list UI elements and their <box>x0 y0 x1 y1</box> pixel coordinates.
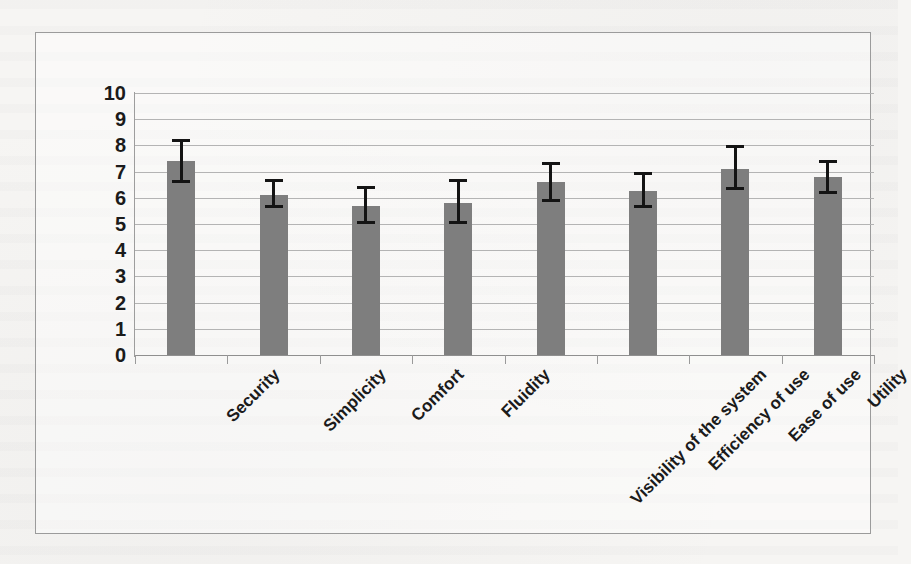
category-label: Security <box>223 365 285 427</box>
error-bar-cap-lower <box>357 221 375 224</box>
y-axis-tick-label: 0 <box>82 345 126 365</box>
category-label: Fluidity <box>498 365 555 422</box>
category-axis-tick <box>505 355 506 364</box>
gridline <box>135 145 874 146</box>
error-bar-cap-lower <box>172 180 190 183</box>
error-bar-stem <box>826 160 829 194</box>
bar <box>629 191 657 355</box>
error-bar <box>357 186 375 224</box>
error-bar-stem <box>549 162 552 201</box>
bar <box>721 169 749 355</box>
error-bar <box>172 139 190 184</box>
bar <box>537 182 565 355</box>
gridline <box>135 276 874 277</box>
error-bar-cap-lower <box>819 191 837 194</box>
error-bar <box>542 162 560 201</box>
y-axis-tick-label: 10 <box>82 83 126 103</box>
y-axis-tick-label: 8 <box>82 135 126 155</box>
y-axis-tick-labels: 109876543210 <box>76 33 126 533</box>
error-bar-cap-lower <box>542 199 560 202</box>
gridline <box>135 119 874 120</box>
error-bar <box>449 179 467 224</box>
y-axis-tick-label: 4 <box>82 240 126 260</box>
category-axis-tick <box>135 355 136 364</box>
category-label: Comfort <box>407 365 468 426</box>
gridline <box>135 172 874 173</box>
category-label: Utility <box>864 365 911 413</box>
y-axis-tick-label: 5 <box>82 214 126 234</box>
y-axis-tick-label: 6 <box>82 188 126 208</box>
error-bar <box>819 160 837 194</box>
error-bar-stem <box>180 139 183 184</box>
error-bar-cap-lower <box>634 205 652 208</box>
error-bar-stem <box>457 179 460 224</box>
gridline <box>135 93 874 94</box>
bar <box>352 206 380 355</box>
y-axis-tick-label: 9 <box>82 109 126 129</box>
bar <box>444 203 472 355</box>
category-axis-tick <box>597 355 598 364</box>
y-axis-tick-label: 1 <box>82 319 126 339</box>
error-bar-stem <box>734 145 737 190</box>
error-bar <box>726 145 744 190</box>
category-axis-tick <box>227 355 228 364</box>
value-axis-line <box>134 92 135 357</box>
error-bar-stem <box>642 172 645 209</box>
error-bar <box>265 179 283 208</box>
category-axis-tick <box>782 355 783 364</box>
error-bar-stem <box>364 186 367 224</box>
category-axis-tick <box>874 355 875 364</box>
x-axis-category-labels: SecuritySimplicityComfortFluidityVisibil… <box>135 365 875 525</box>
category-label: Simplicity <box>319 365 390 436</box>
chart-frame: 109876543210 SecuritySimplicityComfortFl… <box>35 32 871 534</box>
category-axis-tick <box>412 355 413 364</box>
error-bar-cap-lower <box>449 221 467 224</box>
error-bar <box>634 172 652 209</box>
error-bar-cap-lower <box>726 187 744 190</box>
bar <box>260 195 288 355</box>
category-axis-tick <box>689 355 690 364</box>
error-bar-cap-lower <box>265 205 283 208</box>
gridline <box>135 329 874 330</box>
plot-area <box>135 93 874 355</box>
bar <box>167 161 195 355</box>
gridline <box>135 224 874 225</box>
gridline <box>135 250 874 251</box>
gridline <box>135 303 874 304</box>
bar <box>814 177 842 355</box>
category-axis-tick <box>320 355 321 364</box>
y-axis-tick-label: 3 <box>82 266 126 286</box>
y-axis-tick-label: 2 <box>82 293 126 313</box>
y-axis-tick-label: 7 <box>82 162 126 182</box>
error-bar-stem <box>272 179 275 208</box>
gridline <box>135 198 874 199</box>
